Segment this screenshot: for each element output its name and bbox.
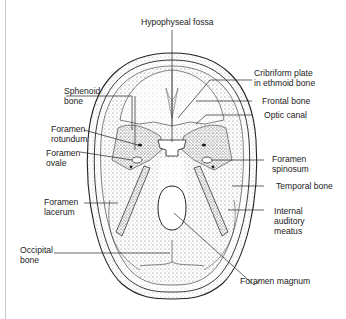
label-foramen-lacerum: Foramen lacerum xyxy=(44,197,78,217)
label-sphenoid-bone: Sphenoid bone xyxy=(64,86,100,106)
label-foramen-spinosum: Foramen spinosum xyxy=(272,154,309,174)
label-foramen-magnum: Foramen magnum xyxy=(240,276,310,286)
label-hypophyseal-fossa: Hypophyseal fossa xyxy=(141,17,214,27)
label-cribriform-plate: Cribriform plate in ethmoid bone xyxy=(254,68,315,88)
label-occipital-bone: Occipital bone xyxy=(20,245,53,265)
foramen-magnum-shape xyxy=(157,158,188,230)
label-foramen-ovale: Foramen ovale xyxy=(46,148,80,168)
label-frontal-bone: Frontal bone xyxy=(262,96,310,106)
label-optic-canal: Optic canal xyxy=(264,110,307,120)
label-foramen-rotundum: Foramen rotundum xyxy=(51,124,87,144)
label-internal-auditory-meatus: Internal auditory meatus xyxy=(274,206,305,236)
label-temporal-bone: Temporal bone xyxy=(276,181,333,191)
